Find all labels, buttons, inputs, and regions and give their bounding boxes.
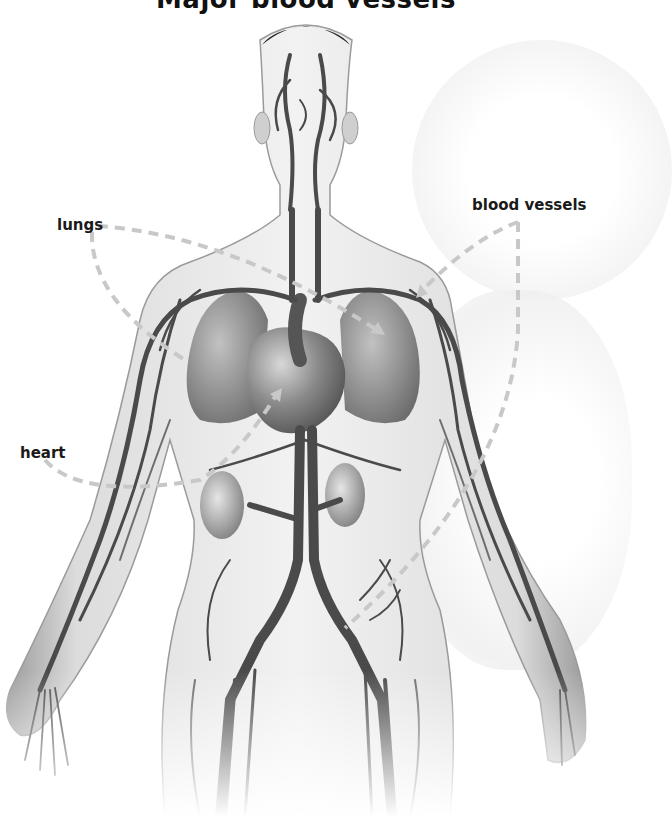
label-lungs: lungs xyxy=(57,216,103,234)
label-blood-vessels: blood vessels xyxy=(472,196,587,214)
label-heart: heart xyxy=(20,444,66,462)
